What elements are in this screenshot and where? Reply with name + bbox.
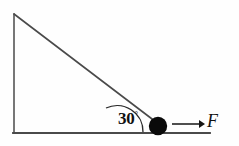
angle-label: 30° bbox=[118, 110, 138, 127]
angle-value: 30 bbox=[118, 109, 135, 128]
ramp-hypotenuse bbox=[14, 14, 156, 122]
physics-diagram-figure: 30° F bbox=[0, 0, 239, 146]
ball bbox=[149, 117, 167, 135]
force-label: F bbox=[207, 112, 218, 130]
force-arrow-head bbox=[199, 120, 205, 128]
degree-symbol: ° bbox=[135, 109, 138, 119]
